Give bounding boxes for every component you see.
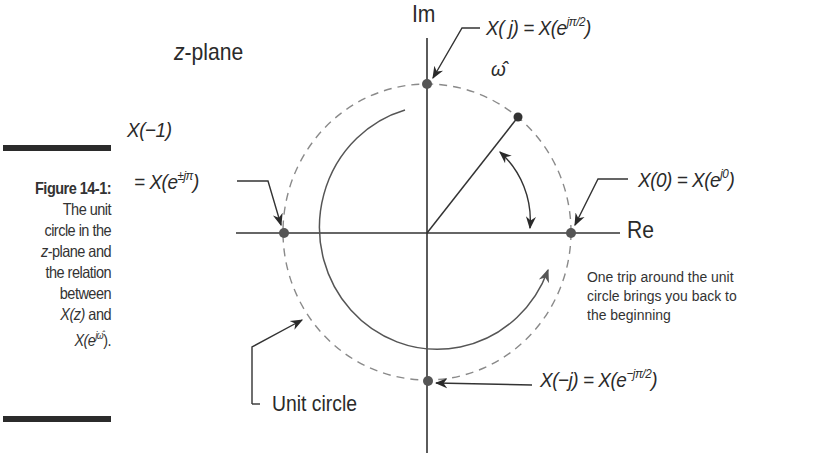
real-axis-label: Re <box>627 216 654 244</box>
label-left-point-line2: = X(e±jπ) <box>134 168 199 194</box>
trip-arc-arrow <box>319 110 548 349</box>
label-right-point: X(0) = X(ej0) <box>638 166 734 192</box>
radius-line <box>427 117 518 233</box>
point-top <box>422 79 432 89</box>
unit-circle-diagram <box>0 0 823 453</box>
point-bottom <box>423 376 433 386</box>
callout-left <box>237 181 281 225</box>
label-left-point-line1: X(−1) <box>127 118 171 142</box>
angle-arc <box>500 152 530 228</box>
angle-omega-label: ω̂ <box>491 57 505 81</box>
label-top-point: X( j) = X(ejπ/2) <box>486 14 591 40</box>
callout-right <box>575 179 628 225</box>
callout-top <box>433 28 480 78</box>
trip-note: One trip around the unit circle brings y… <box>587 267 737 324</box>
z-plane-label: z-plane <box>174 38 243 66</box>
point-left <box>279 228 289 238</box>
point-e-jw <box>514 113 523 122</box>
imaginary-axis-label: Im <box>412 0 435 28</box>
callout-bottom <box>436 383 532 385</box>
point-right <box>566 228 576 238</box>
unit-circle-label: Unit circle <box>272 391 357 417</box>
label-bottom-point: X(−j) = X(e−jπ/2) <box>540 366 657 392</box>
